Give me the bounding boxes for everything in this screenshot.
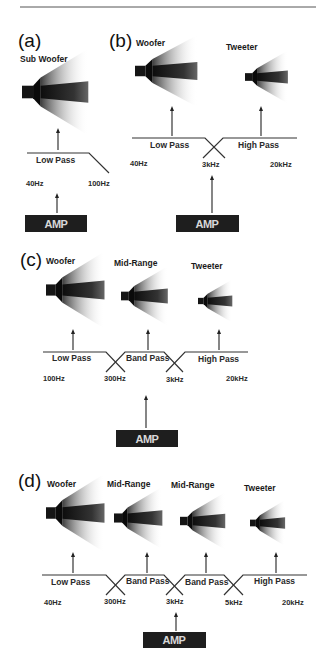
speaker-label: Tweeter [226, 42, 258, 52]
speaker-label: Woofer [47, 479, 77, 489]
freq-label: 300Hz [104, 597, 126, 606]
panel-label: (a) [18, 30, 41, 51]
midrange-speaker-icon [114, 487, 162, 549]
crossover-diagram: (a) Sub Woofer Low Pass 40Hz 100Hz AMP (… [0, 0, 316, 654]
freq-label: 3kHz [202, 160, 220, 169]
tweeter-speaker-icon [198, 279, 232, 322]
speaker-label: Mid-Range [171, 480, 215, 490]
freq-label: 3kHz [166, 597, 184, 606]
freq-label: 40Hz [44, 598, 62, 607]
panel-d: (d) Woofer Mid-Range Mid-Range Tweeter L… [18, 470, 307, 648]
freq-label: 3kHz [166, 375, 184, 384]
amp-label: AMP [45, 218, 68, 230]
panel-a: (a) Sub Woofer Low Pass 40Hz 100Hz AMP [18, 30, 110, 232]
filter-label: Band Pass [126, 353, 170, 363]
speaker-label: Mid-Range [114, 258, 158, 268]
tweeter-speaker-icon [250, 500, 285, 546]
speaker-label: Tweeter [244, 483, 276, 493]
filter-label: Low Pass [52, 353, 91, 363]
filter-label: Low Pass [150, 140, 189, 150]
freq-label: 20kHz [226, 374, 248, 383]
speaker-label: Woofer [136, 38, 166, 48]
filter-label: High Pass [238, 140, 279, 150]
freq-label: 100Hz [88, 179, 110, 188]
amp-label: AMP [136, 433, 159, 445]
panel-label: (d) [18, 470, 41, 491]
filter-label: Band Pass [126, 576, 170, 586]
freq-label: 300Hz [104, 374, 126, 383]
freq-label: 20kHz [270, 160, 292, 169]
filter-label: High Pass [198, 354, 239, 364]
midrange-speaker-icon [180, 492, 225, 550]
panel-b: (b) Woofer Tweeter Low Pass High Pass 40… [109, 30, 297, 232]
speaker-label: Sub Woofer [20, 54, 68, 64]
speaker-label: Tweeter [191, 261, 223, 271]
tweeter-speaker-icon [245, 51, 288, 104]
filter-label: High Pass [254, 576, 295, 586]
filter-label: Band Pass [185, 577, 229, 587]
speaker-label: Woofer [46, 256, 76, 266]
speaker-label: Mid-Range [107, 479, 151, 489]
amp-label: AMP [196, 218, 219, 230]
midrange-speaker-icon [121, 266, 168, 326]
panel-c: (c) Woofer Mid-Range Tweeter Low Pass Ba… [20, 249, 248, 447]
freq-label: 40Hz [130, 159, 148, 168]
filter-label: Low Pass [36, 155, 75, 165]
amp-label: AMP [163, 634, 186, 646]
freq-label: 20kHz [282, 598, 304, 607]
panel-label: (c) [20, 249, 42, 270]
freq-label: 40Hz [26, 179, 44, 188]
filter-label: Low Pass [51, 577, 90, 587]
freq-label: 5kHz [225, 598, 243, 607]
panel-label: (b) [109, 30, 132, 51]
freq-label: 100Hz [43, 374, 65, 383]
